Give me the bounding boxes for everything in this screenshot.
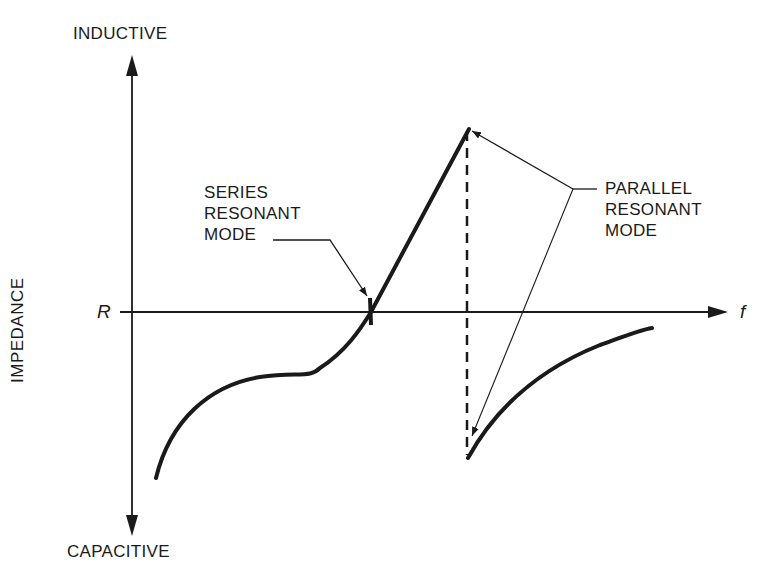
- impedance-axis-label: IMPEDANCE: [8, 277, 28, 383]
- r-level-label: R: [97, 302, 111, 322]
- x-axis: [120, 306, 728, 318]
- parallel-resonant-mode-label: PARALLEL RESONANT MODE: [605, 178, 702, 241]
- impedance-curve-low: [156, 312, 371, 478]
- impedance-diagram: [0, 0, 777, 585]
- parallel-mode-leader-top: [472, 131, 573, 189]
- series-resonant-mode-label: SERIES RESONANT MODE: [204, 182, 301, 245]
- y-axis: [126, 55, 138, 536]
- impedance-curve-inductive: [371, 129, 469, 312]
- series-resonance-marker: [370, 298, 371, 325]
- y-axis-down-arrow-icon: [126, 515, 138, 536]
- x-axis-arrow-icon: [708, 306, 728, 318]
- capacitive-label: CAPACITIVE: [67, 542, 170, 562]
- frequency-axis-label: f: [740, 302, 746, 322]
- impedance-curve-high: [468, 328, 652, 458]
- series-mode-leader: [273, 240, 367, 296]
- y-axis-up-arrow-icon: [126, 55, 138, 76]
- inductive-label: INDUCTIVE: [73, 24, 167, 44]
